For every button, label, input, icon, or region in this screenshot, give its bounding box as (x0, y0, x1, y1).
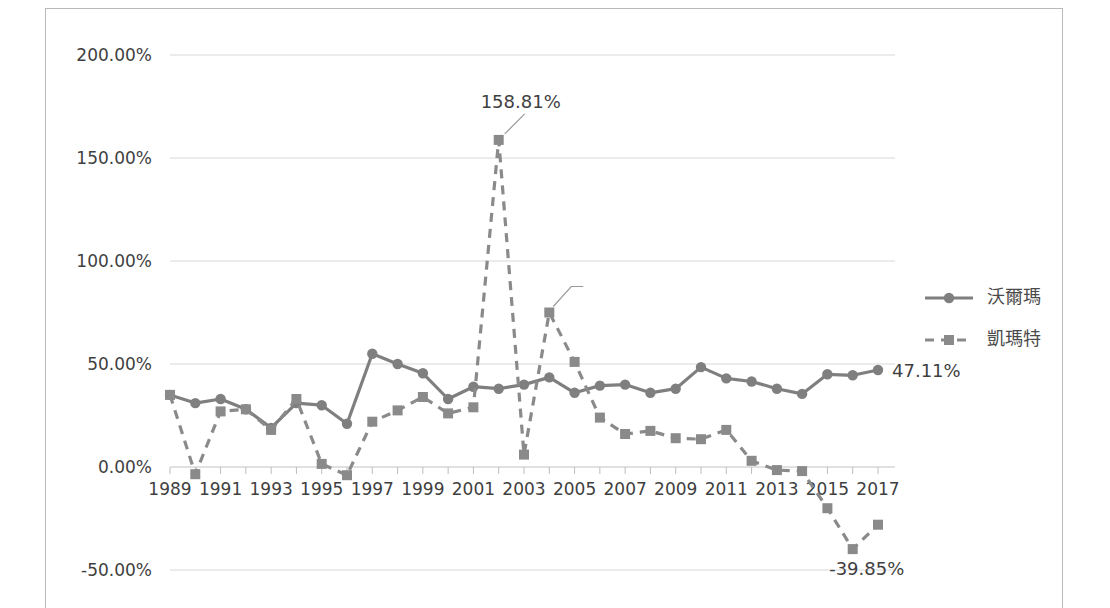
data-point-marker (317, 400, 327, 410)
data-point-marker (772, 384, 782, 394)
end-annotation: 47.11% (892, 360, 961, 381)
data-point-marker (367, 417, 377, 427)
data-point-marker (797, 389, 807, 399)
data-point-marker (190, 398, 200, 408)
data-point-marker (620, 429, 630, 439)
xaxis-tick-label: 2009 (654, 479, 697, 499)
data-point-marker (671, 384, 681, 394)
data-point-marker (873, 520, 883, 530)
peak-annotation: 158.81% (481, 91, 561, 112)
data-point-marker (291, 394, 301, 404)
annotations-group: 158.81%47.11%-39.85% (481, 91, 961, 579)
xaxis-tick-label: 2011 (705, 479, 748, 499)
data-point-marker (165, 390, 175, 400)
annotation-leader-line (505, 114, 525, 134)
data-point-marker (721, 373, 731, 383)
data-point-marker (266, 425, 276, 435)
xaxis-tick-label: 1997 (351, 479, 394, 499)
xaxis-tick-label: 1999 (401, 479, 444, 499)
data-point-marker (418, 368, 428, 378)
data-point-marker (367, 349, 377, 359)
xaxis-tick-label: 2007 (604, 479, 647, 499)
data-point-marker (848, 370, 858, 380)
data-point-marker (519, 379, 529, 389)
data-point-marker (595, 413, 605, 423)
data-point-marker (241, 404, 251, 414)
data-point-marker (190, 469, 200, 479)
yaxis-tick-label: 0.00% (98, 457, 152, 477)
xaxis-tick-label: 2003 (502, 479, 545, 499)
yaxis-tick-label: 200.00% (76, 45, 152, 65)
xaxis-tick-label: 2015 (806, 479, 849, 499)
data-point-marker (797, 466, 807, 476)
yaxis-tick-label: -50.00% (81, 560, 152, 580)
data-point-marker (645, 388, 655, 398)
data-point-marker (747, 456, 757, 466)
xaxis-tick-label: 1995 (300, 479, 343, 499)
data-point-marker (696, 434, 706, 444)
legend-item-label[interactable]: 凱瑪特 (987, 328, 1041, 349)
data-point-marker (746, 376, 756, 386)
data-point-marker (595, 380, 605, 390)
data-point-marker (772, 465, 782, 475)
legend-item-label[interactable]: 沃爾瑪 (987, 286, 1041, 307)
xaxis-labels-group: 1989199119931995199719992001200320052007… (148, 479, 899, 499)
yaxis-tick-label: 50.00% (87, 354, 152, 374)
data-point-marker (671, 433, 681, 443)
data-point-marker (873, 365, 883, 375)
xaxis-tick-label: 2005 (553, 479, 596, 499)
data-point-marker (468, 402, 478, 412)
yaxis-tick-label: 100.00% (76, 251, 152, 271)
data-point-marker (215, 394, 225, 404)
data-point-marker (696, 362, 706, 372)
data-point-marker (418, 392, 428, 402)
data-point-marker (544, 308, 554, 318)
data-point-marker (443, 408, 453, 418)
legend-marker-swatch (944, 335, 954, 345)
yaxis-tick-label: 150.00% (76, 148, 152, 168)
data-point-marker (342, 419, 352, 429)
data-point-marker (494, 384, 504, 394)
xaxis-tick-label: 1993 (250, 479, 293, 499)
data-point-marker (392, 359, 402, 369)
data-point-marker (443, 394, 453, 404)
data-point-marker (569, 388, 579, 398)
yaxis-labels-group: 200.00%150.00%100.00%50.00%0.00%-50.00% (76, 45, 152, 580)
xaxis-tick-label: 1989 (148, 479, 191, 499)
data-point-marker (645, 426, 655, 436)
legend-group: 沃爾瑪凱瑪特 (925, 286, 1041, 349)
data-point-marker (822, 369, 832, 379)
trough-annotation: -39.85% (829, 558, 904, 579)
data-point-marker (317, 459, 327, 469)
data-point-marker (570, 357, 580, 367)
data-point-marker (494, 135, 504, 145)
series-line-walmart (170, 354, 878, 428)
data-point-marker (544, 372, 554, 382)
xaxis-tick-label: 2017 (856, 479, 899, 499)
xaxis-tick-label: 1991 (199, 479, 242, 499)
xaxis-tick-label: 2013 (755, 479, 798, 499)
data-point-marker (721, 425, 731, 435)
data-point-marker (620, 379, 630, 389)
data-point-marker (342, 470, 352, 480)
data-point-marker (822, 503, 832, 513)
data-point-marker (519, 450, 529, 460)
legend-marker-swatch (944, 293, 954, 303)
data-point-marker (848, 544, 858, 554)
annotation-leader-stub (553, 287, 583, 307)
xaxis-tick-label: 2001 (452, 479, 495, 499)
data-point-marker (393, 405, 403, 415)
data-point-marker (216, 406, 226, 416)
